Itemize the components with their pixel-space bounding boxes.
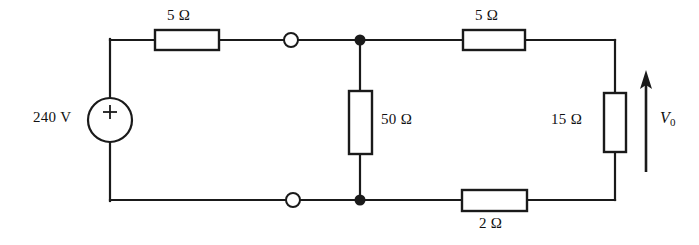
voltage-source-symbol [88,98,132,142]
circuit-diagram: 240 V 5 Ω 5 Ω 50 Ω 15 Ω 2 Ω V0 [0,0,699,245]
resistor-bottom-body [462,190,527,211]
resistor-bottom-label: 2 Ω [479,216,502,231]
resistor-top-right-body [463,30,525,50]
junction-node-top [355,35,366,46]
circuit-schematic-svg [0,0,699,245]
resistor-right-label: 15 Ω [551,112,582,127]
output-voltage-symbol: V [660,109,670,126]
resistor-top-left-label: 5 Ω [167,8,190,23]
resistor-middle-body [349,91,372,154]
resistor-right-body [604,93,626,152]
source-label: 240 V [33,110,71,125]
open-terminal-bottom[interactable] [286,193,300,207]
open-terminal-top[interactable] [284,33,298,47]
resistor-top-right-label: 5 Ω [475,8,498,23]
output-voltage-subscript: 0 [670,116,676,128]
output-voltage-label: V0 [660,110,676,128]
resistor-middle-label: 50 Ω [381,112,412,127]
resistor-top-left-body [155,30,219,50]
junction-node-bottom [355,195,366,206]
